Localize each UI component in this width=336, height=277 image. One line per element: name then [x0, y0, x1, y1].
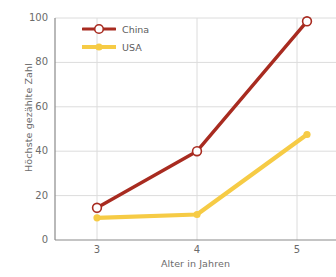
legend-item-usa[interactable]: USA	[82, 38, 149, 56]
legend-item-china[interactable]: China	[82, 20, 149, 38]
legend-swatch-usa	[82, 40, 116, 54]
x-tick-label-4: 4	[182, 245, 212, 255]
x-tick-label-3: 3	[82, 245, 112, 255]
legend-label-china: China	[122, 24, 149, 35]
data-point-china-5	[303, 17, 312, 26]
data-point-china-4	[193, 147, 202, 156]
legend-label-usa: USA	[122, 42, 142, 53]
line-chart: 100 80 60 40 20 0 3 4 5 Höchste gezählte…	[0, 0, 336, 277]
data-point-usa-3	[93, 214, 100, 221]
x-axis-title: Alter in Jahren	[55, 258, 336, 269]
data-point-usa-5	[303, 131, 310, 138]
y-tick-label-0: 0	[8, 235, 48, 245]
data-point-china-3	[93, 203, 102, 212]
legend: China USA	[82, 20, 149, 56]
legend-swatch-china	[82, 22, 116, 36]
data-point-usa-4	[193, 211, 200, 218]
plot-area	[0, 0, 336, 277]
y-axis-title: Höchste gezählte Zahl	[23, 28, 34, 208]
y-tick-label-100: 100	[8, 13, 48, 23]
x-tick-label-5: 5	[282, 245, 312, 255]
